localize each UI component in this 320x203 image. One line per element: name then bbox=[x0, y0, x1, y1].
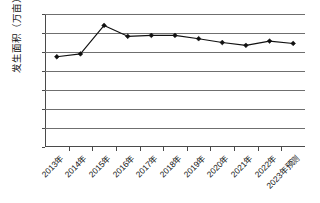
x-axis-tick-mark bbox=[140, 147, 141, 151]
x-axis-tick-mark bbox=[234, 147, 235, 151]
x-axis-tick-mark bbox=[163, 147, 164, 151]
data-point-marker bbox=[244, 43, 249, 48]
data-point-marker bbox=[267, 39, 272, 44]
data-point-marker bbox=[196, 36, 201, 41]
x-axis-tick-mark bbox=[210, 147, 211, 151]
x-axis-tick-mark bbox=[92, 147, 93, 151]
x-axis-tick-mark bbox=[187, 147, 188, 151]
plot-area: 02468101214 2013年2014年2015年2016年2017年201… bbox=[45, 14, 305, 147]
data-point-marker bbox=[220, 40, 225, 45]
y-axis-title: 发生面积（万亩） bbox=[9, 0, 27, 93]
data-point-marker bbox=[291, 41, 296, 46]
line-chart: 发生面积（万亩） 02468101214 2013年2014年2015年2016… bbox=[0, 0, 320, 203]
x-axis-tick-mark bbox=[69, 147, 70, 151]
data-series bbox=[45, 14, 305, 147]
x-axis-tick-mark bbox=[281, 147, 282, 151]
data-point-marker bbox=[125, 34, 130, 39]
x-axis-tick-mark bbox=[116, 147, 117, 151]
x-axis-tick-mark bbox=[258, 147, 259, 151]
y-axis-tick-mark bbox=[42, 147, 46, 148]
data-point-marker bbox=[149, 33, 154, 38]
series-line bbox=[57, 25, 293, 56]
data-point-marker bbox=[173, 33, 178, 38]
data-point-marker bbox=[54, 54, 59, 59]
